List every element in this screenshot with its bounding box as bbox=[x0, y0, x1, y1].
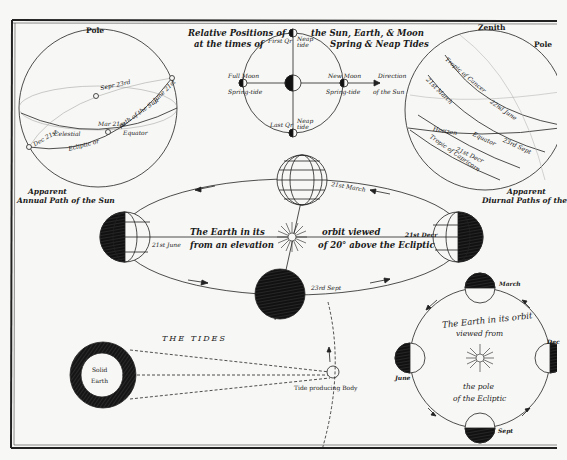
dec-orbit-label: 21st Decr bbox=[405, 232, 437, 238]
spring-tide-left-label: Spring-tide bbox=[228, 89, 262, 95]
annual-path-sphere bbox=[19, 29, 177, 187]
orbit-text-right-1: orbit viewed bbox=[322, 228, 380, 237]
earth-label: Earth bbox=[91, 378, 108, 384]
orbit-text-left-1: The Earth in its bbox=[190, 228, 265, 237]
sun-icon bbox=[277, 222, 307, 252]
sept-pole-label: Sept bbox=[498, 428, 513, 434]
positions-title-right-2: Spring & Neap Tides bbox=[330, 40, 429, 49]
pole-text-3: the pole bbox=[463, 383, 494, 391]
earth-september bbox=[255, 269, 305, 319]
june-orbit-label: 21st June bbox=[152, 242, 181, 248]
neap-tide-bottom-label: Neap tide bbox=[297, 118, 317, 130]
last-quarter-label: Last Qr bbox=[270, 122, 293, 128]
pole-label-right: Pole bbox=[534, 41, 552, 49]
sep-orbit-label: 23rd Sept bbox=[311, 285, 341, 291]
solid-label: Solid bbox=[92, 367, 107, 373]
first-quarter-label: First Qr bbox=[268, 38, 292, 44]
sun-icon bbox=[466, 344, 494, 372]
tide-producing-body-label: Tide producing Body bbox=[294, 385, 357, 391]
annual-caption-2: Annual Path of the Sun bbox=[17, 197, 115, 205]
earth-march bbox=[277, 155, 327, 205]
of-the-sun-label: of the Sun bbox=[373, 89, 404, 95]
celestial-label: Celestial bbox=[54, 131, 81, 137]
pole-text-4: of the Ecliptic bbox=[453, 395, 506, 403]
annual-caption-1: Apparent bbox=[28, 188, 67, 196]
full-moon-label: Full Moon bbox=[228, 73, 259, 79]
spring-tide-right-label: Spring-tide bbox=[326, 89, 360, 95]
orbit-text-right-2: of 20° above the Ecliptic bbox=[318, 241, 435, 250]
neap-tide-top-label: Neap tide bbox=[297, 36, 317, 48]
diurnal-caption-1: Apparent bbox=[507, 188, 546, 196]
orbit-pole-diagram bbox=[395, 273, 557, 443]
earth-december bbox=[433, 212, 483, 262]
equator-label: Equator bbox=[123, 130, 148, 136]
dec-pole-label: Dec bbox=[547, 339, 560, 345]
march-pole-label: March bbox=[499, 281, 521, 287]
zenith-label: Zenith bbox=[478, 24, 505, 32]
new-moon-label: New Moon bbox=[328, 73, 361, 79]
june-pole-label: June bbox=[395, 375, 410, 381]
earth-june bbox=[100, 212, 150, 262]
direction-label: Direction bbox=[378, 73, 406, 79]
diurnal-caption-2: Diurnal Paths of the bbox=[482, 197, 567, 205]
pole-label: Pole bbox=[86, 27, 104, 35]
tides-title: THE TIDES bbox=[162, 335, 227, 343]
positions-title-right-1: the Sun, Earth, & Moon bbox=[311, 29, 424, 38]
tides-diagram bbox=[70, 302, 339, 450]
orbit-text-left-2: from an elevation bbox=[190, 241, 274, 250]
positions-title-left-2: at the times of bbox=[194, 40, 264, 49]
pole-text-2: viewed from bbox=[456, 330, 503, 338]
